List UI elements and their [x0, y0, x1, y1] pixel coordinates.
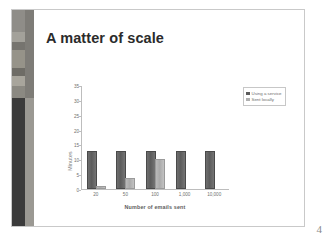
bar-group: 50 — [116, 86, 134, 189]
decorative-side-strip — [12, 10, 34, 226]
bar-chart: Minutes 0510152025303520501001,00010,000… — [34, 76, 305, 226]
x-axis-line — [81, 189, 229, 190]
y-axis-title: Minutes — [67, 138, 73, 184]
bar-group: 10,000 — [205, 86, 223, 189]
y-axis-tick-mark — [79, 175, 81, 176]
legend-item: Sent locally — [246, 97, 282, 102]
y-axis-line — [81, 86, 82, 190]
y-axis-tick-mark — [79, 101, 81, 102]
y-axis-tick-mark — [79, 86, 81, 87]
x-axis-tick-label: 50 — [110, 192, 140, 197]
bar-group: 20 — [87, 86, 105, 189]
y-axis-tick-mark — [79, 116, 81, 117]
bar — [87, 151, 97, 189]
y-axis-tick-mark — [79, 190, 81, 191]
legend-label: Sent locally — [252, 97, 274, 102]
x-axis-tick-label: 1,000 — [170, 192, 200, 197]
x-axis-tick-label: 100 — [140, 192, 170, 197]
y-axis-tick-mark — [79, 145, 81, 146]
x-axis-title: Number of emails sent — [81, 204, 229, 210]
slide-number: 4 — [317, 223, 323, 235]
page-title: A matter of scale — [46, 30, 164, 46]
legend-swatch-icon — [246, 92, 250, 96]
bar — [96, 186, 106, 189]
legend-swatch-icon — [246, 98, 250, 102]
legend-item: Using a service — [246, 91, 282, 96]
bar-group: 100 — [146, 86, 164, 189]
bar — [176, 151, 186, 189]
y-axis-tick-mark — [79, 131, 81, 132]
plot-area: 0510152025303520501001,00010,000 — [81, 86, 229, 190]
x-axis-tick-label: 10,000 — [199, 192, 229, 197]
bar — [125, 178, 135, 189]
presentation-slide: A matter of scale Minutes 05101520253035… — [11, 9, 305, 227]
bar — [205, 151, 215, 189]
x-axis-tick-label: 20 — [81, 192, 111, 197]
bar-group: 1,000 — [176, 86, 194, 189]
y-axis-tick-mark — [79, 160, 81, 161]
chart-legend: Using a service Sent locally — [243, 87, 286, 106]
bar — [155, 159, 165, 189]
decorative-accent-bar — [25, 10, 34, 226]
decorative-photo-band — [12, 10, 25, 226]
legend-label: Using a service — [252, 91, 282, 96]
